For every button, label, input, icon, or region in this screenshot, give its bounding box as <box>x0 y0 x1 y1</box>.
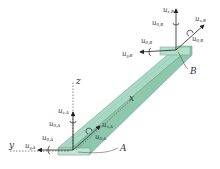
label-ux-b: ux,B <box>195 15 206 23</box>
label-uy-b: uy,B <box>122 50 133 58</box>
node-b-label: B <box>189 66 197 76</box>
label-thz-a: uθ,A <box>49 120 60 128</box>
label-uy-a: uy,A <box>25 142 36 150</box>
label-thy-b: uθ,B <box>141 37 152 45</box>
node-a-label: A <box>119 143 127 153</box>
y-axis-label: y <box>8 140 15 150</box>
beam <box>58 46 192 155</box>
label-uz-a: uz,A <box>58 107 69 115</box>
label-thx-b: uθ,B <box>192 35 203 43</box>
x-axis-label: x <box>129 93 134 103</box>
label-thy-a: uθ,A <box>42 134 53 142</box>
beam-diagram: x z y uz,A uθ,A ux,A uθ,A uθ,A uy,A A uz… <box>0 0 220 169</box>
z-axis-label: z <box>75 76 81 86</box>
label-uz-b: uz,B <box>163 6 174 14</box>
label-thz-b: uθ,B <box>152 19 163 27</box>
